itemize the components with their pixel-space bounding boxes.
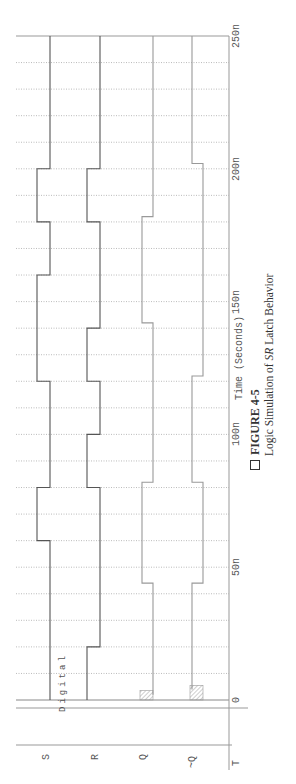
waveform-not-q	[192, 36, 203, 689]
gridlines	[16, 63, 229, 674]
figure-caption-text: Logic Simulation of SR Latch Behavior	[263, 274, 275, 456]
signal-label-q: Q	[138, 754, 149, 760]
waveform-q	[142, 36, 153, 695]
signal-label-s: S	[41, 754, 52, 760]
signal-label-not-q: ~Q	[187, 756, 198, 768]
time-tick-label: 0	[231, 697, 242, 703]
unknown-state-hatch	[140, 691, 153, 700]
time-tick-label: 200n	[231, 157, 242, 181]
square-bullet-icon	[250, 460, 260, 470]
unknown-state-hatch	[190, 685, 203, 700]
waveform-s	[37, 36, 50, 700]
waveform-r	[87, 36, 100, 700]
figure-number: FIGURE 4-5	[248, 274, 263, 470]
axis-end-label: T	[231, 760, 242, 766]
signal-label-r: R	[90, 754, 101, 760]
waveforms	[37, 36, 203, 700]
time-tick-label: 50n	[231, 558, 242, 576]
figure-caption: FIGURE 4-5 Logic Simulation of SR Latch …	[248, 274, 275, 470]
time-tick-label: 250n	[231, 24, 242, 48]
time-tick-label: 100n	[231, 422, 242, 446]
plot-tag-digital: Digital	[58, 653, 68, 712]
x-axis-title: Time (Seconds)	[234, 316, 245, 400]
plot-frame	[16, 36, 248, 770]
time-tick-label: 150n	[231, 290, 242, 314]
